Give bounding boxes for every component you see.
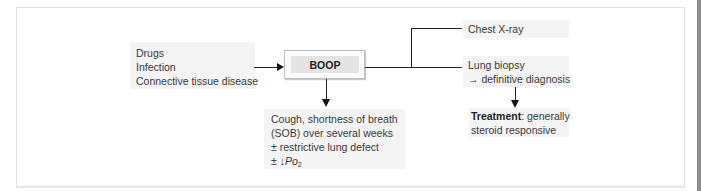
cause-connective-tissue-disease: Connective tissue disease [136,74,255,88]
connector-branch-vertical [411,28,412,68]
presentation-line-3: ± restrictive lung defect [271,140,405,154]
lung-biopsy-label: Lung biopsy [468,58,569,72]
presentation-box: Cough, shortness of breath (SOB) over se… [264,109,405,169]
treatment-line-2: steroid responsive [471,123,569,137]
arrow-down-icon [511,100,519,108]
treatment-line-1: Treatment: generally [471,109,569,123]
arrow-down-icon [322,99,330,107]
lung-biopsy-result: → definitive diagnosis [468,72,569,86]
cause-infection: Infection [136,60,255,74]
chest-xray-label: Chest X-ray [468,22,569,36]
connector-causes-to-boop [254,67,278,68]
plus-minus-prefix: ± [271,155,280,167]
presentation-line-4: ± ↓Po2 [271,154,405,172]
connector-biopsy-to-treatment [515,87,516,101]
presentation-line-2: (SOB) over several weeks [271,126,405,140]
po2-variable: Po [285,155,298,167]
causes-box: Drugs Infection Connective tissue diseas… [130,42,255,89]
window-edge [697,0,701,191]
connector-boop-to-biopsy [365,67,462,68]
treatment-label: Treatment [471,110,521,122]
connector-branch-to-xray [411,28,462,29]
presentation-line-1: Cough, shortness of breath [271,112,405,126]
treatment-text: : generally [521,110,569,122]
boop-node: BOOP [284,50,365,79]
lung-biopsy-box: Lung biopsy → definitive diagnosis [463,56,569,87]
treatment-box: Treatment: generally steroid responsive [469,108,569,137]
boop-label: BOOP [291,56,359,73]
chest-xray-box: Chest X-ray [463,20,569,38]
po2-subscript: 2 [298,161,302,168]
arrow-right-icon [277,63,284,71]
connector-boop-to-presentation [326,79,327,100]
cause-drugs: Drugs [136,46,255,60]
